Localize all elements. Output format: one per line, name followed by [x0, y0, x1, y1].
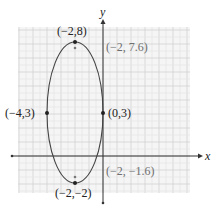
- ellipse-chart: x y (−2,8) (−2, 7.6) (−4,3) (0,3) (−2, −…: [0, 0, 216, 213]
- vertex-top-label: (−2,8): [57, 24, 87, 38]
- x-axis-left-end-dot: [11, 155, 14, 158]
- covertex-left-point: [45, 111, 49, 115]
- x-axis-label: x: [204, 149, 211, 163]
- y-axis-arrow-icon: [101, 19, 106, 24]
- focus-top-point: [74, 47, 77, 50]
- focus-bottom-label: (−2, −1.6): [106, 164, 155, 178]
- covertex-right-label: (0,3): [108, 106, 131, 120]
- vertex-bottom-point: [73, 181, 77, 185]
- vertex-bottom-label: (−2,−2): [55, 186, 92, 200]
- x-axis-arrow-icon: [198, 154, 203, 159]
- y-axis-label: y: [99, 5, 106, 19]
- vertex-top-point: [73, 40, 77, 44]
- focus-bottom-point: [74, 176, 77, 179]
- focus-top-label: (−2, 7.6): [106, 40, 148, 54]
- covertex-right-point: [101, 111, 105, 115]
- y-axis-bottom-end-dot: [102, 202, 105, 205]
- covertex-left-label: (−4,3): [5, 106, 35, 120]
- grid-background: [18, 27, 190, 193]
